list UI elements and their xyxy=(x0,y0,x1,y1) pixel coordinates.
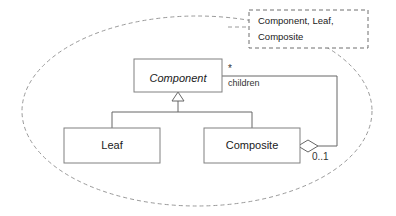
class-label-composite: Composite xyxy=(226,139,279,151)
multiplicity-zero-one: 0..1 xyxy=(312,151,329,162)
class-label-component: Component xyxy=(150,72,208,84)
generalization-triangle-icon xyxy=(172,92,184,101)
class-label-leaf: Leaf xyxy=(101,139,123,151)
note-text-line-2: Composite xyxy=(258,31,303,42)
uml-diagram-canvas: Component Leaf Composite * children 0..1… xyxy=(0,0,396,216)
multiplicity-star: * xyxy=(228,63,232,74)
uml-diagram-svg: Component Leaf Composite * children 0..1… xyxy=(0,0,396,216)
association-role-label: children xyxy=(228,78,260,88)
note-text-line-1: Component, Leaf, xyxy=(258,15,334,26)
